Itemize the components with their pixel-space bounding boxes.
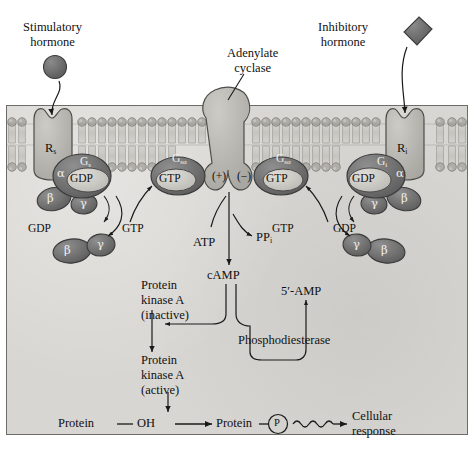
amp5-label: 5′-AMP bbox=[281, 284, 321, 299]
camp-label: cAMP bbox=[207, 268, 240, 283]
phosphate-label: P bbox=[274, 417, 280, 429]
gtp-bound-left-label: GTP bbox=[122, 222, 144, 236]
protein-phospho-label: Protein bbox=[216, 416, 252, 431]
gs-beta-label: β bbox=[47, 192, 54, 206]
gtp-binding-arrow-right bbox=[306, 186, 328, 222]
gs-alpha-gtp-left-label: Gsα bbox=[172, 152, 187, 166]
free-gamma-left-label: γ bbox=[97, 238, 104, 252]
gdp-release-arrow-right bbox=[349, 196, 354, 222]
pka-inactive-label: Protein kinase A (inactive) bbox=[141, 278, 189, 322]
free-beta-gamma-right bbox=[342, 232, 407, 265]
cellular-response-squiggle bbox=[293, 421, 333, 427]
inhibitory-binding-arrow bbox=[402, 47, 407, 113]
ppi-release-arrow bbox=[233, 214, 252, 236]
stimulatory-binding-arrow bbox=[52, 81, 60, 115]
gtp-binding-arrow-left bbox=[130, 186, 152, 222]
gs-alpha-label: α bbox=[57, 167, 65, 181]
gtp-right-label: GTP bbox=[266, 172, 288, 186]
gdp-released-right-label: GDP bbox=[333, 222, 356, 236]
gtp-bound-right-label: GTP bbox=[272, 222, 294, 236]
free-beta-gamma-left bbox=[52, 232, 117, 265]
receptor-rs-label: Rs bbox=[45, 141, 56, 156]
gdp-released-left-label: GDP bbox=[28, 222, 51, 236]
gi-alpha-label: α bbox=[396, 167, 404, 181]
phosphodiesterase-label: Phosphodiesterase bbox=[238, 333, 330, 348]
gi-gamma-label: γ bbox=[371, 197, 378, 211]
cyclase-activation-plus: (+) bbox=[212, 170, 226, 184]
pde-to-amp-arrow bbox=[250, 300, 306, 360]
gtp-left-label: GTP bbox=[159, 172, 181, 186]
gi-beta-label: β bbox=[401, 192, 408, 206]
adenylate-cyclase-label: Adenylate cyclase bbox=[227, 46, 278, 76]
inhibitory-hormone-shape bbox=[404, 17, 432, 45]
gs-alpha-gtp-right-label: Gsα bbox=[276, 152, 291, 166]
free-beta-right-label: β bbox=[381, 244, 388, 258]
gi-gdp-label: GDP bbox=[352, 172, 375, 186]
stimulatory-hormone-shape bbox=[44, 56, 67, 79]
atp-substrate-arrow bbox=[211, 196, 226, 227]
gs-gdp-label: GDP bbox=[70, 172, 93, 186]
free-beta-left bbox=[52, 237, 93, 265]
ppi-label: PPi bbox=[256, 230, 272, 245]
cyclase-inhibition-minus: (−) bbox=[237, 170, 251, 184]
free-beta-left-label: β bbox=[64, 244, 71, 258]
free-gamma-right-label: γ bbox=[353, 238, 360, 252]
diagram-canvas: Stimulatory hormone Inhibitory hormone A… bbox=[0, 0, 474, 449]
inhibitory-hormone-label: Inhibitory hormone bbox=[318, 20, 368, 50]
stimulatory-hormone-label: Stimulatory hormone bbox=[23, 20, 82, 50]
atp-label: ATP bbox=[193, 235, 215, 250]
gamma-move-arrow-left bbox=[108, 196, 122, 236]
gs-label: Gs bbox=[80, 155, 91, 169]
gdp-release-arrow-left bbox=[104, 196, 109, 222]
oh-group-label: OH bbox=[137, 416, 155, 431]
gs-gamma-label: γ bbox=[80, 197, 87, 211]
protein-oh-label: Protein bbox=[58, 416, 94, 431]
receptor-ri-label: Ri bbox=[397, 141, 408, 156]
gi-label: Gi bbox=[377, 155, 387, 169]
cellular-response-label: Cellular response bbox=[352, 409, 396, 439]
pka-active-label: Protein kinase A (active) bbox=[141, 353, 184, 397]
